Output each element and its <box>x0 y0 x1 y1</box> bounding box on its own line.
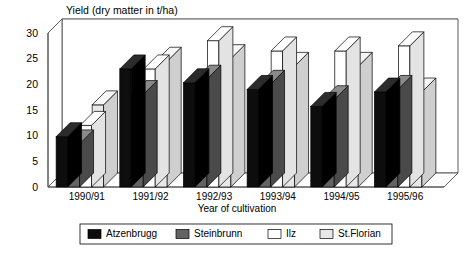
x-axis-labels: 1990/911991/921992/931993/941994/951995/… <box>69 191 424 202</box>
legend-label: Ilz <box>286 228 296 239</box>
y-axis-tick-label: 15 <box>26 104 38 116</box>
legend-swatch <box>176 230 189 239</box>
x-axis-category-label: 1992/93 <box>196 191 233 202</box>
legend-swatch <box>268 230 281 239</box>
legend-label: St.Florian <box>338 228 381 239</box>
chart-legend: AtzenbruggSteinbrunnIlzSt.Florian <box>80 224 392 244</box>
x-axis-title: Year of cultivation <box>198 203 277 214</box>
y-axis-tick-label: 5 <box>32 155 38 167</box>
chart-container: 051015202530 1990/911991/921992/931993/9… <box>0 0 475 255</box>
chart-title: Yield (dry matter in t/ha) <box>66 4 178 16</box>
y-axis-tick-label: 30 <box>26 27 38 39</box>
bar-atzenbrugg-1995-96 <box>374 78 399 187</box>
y-axis-tick-label: 20 <box>26 78 38 90</box>
y-axis-tick-label: 10 <box>26 129 38 141</box>
legend-swatch <box>320 230 333 239</box>
bar-atzenbrugg-1992-93 <box>183 69 208 187</box>
x-axis-category-label: 1994/95 <box>323 191 360 202</box>
x-axis-category-label: 1991/92 <box>132 191 169 202</box>
y-axis-tick-label: 0 <box>32 181 38 193</box>
x-axis-category-label: 1990/91 <box>69 191 106 202</box>
legend-label: Atzenbrugg <box>106 228 157 239</box>
bar-atzenbrugg-1991-92 <box>120 55 145 187</box>
legend-label: Steinbrunn <box>194 228 242 239</box>
x-axis-category-label: 1995/96 <box>387 191 424 202</box>
x-axis-category-label: 1993/94 <box>260 191 297 202</box>
yield-bar-chart: 051015202530 1990/911991/921992/931993/9… <box>0 0 475 255</box>
y-axis-tick-label: 25 <box>26 52 38 64</box>
bar-atzenbrugg-1994-95 <box>311 92 336 187</box>
bar-atzenbrugg-1993-94 <box>247 75 272 187</box>
legend-swatch <box>88 230 101 239</box>
y-axis-labels: 051015202530 <box>26 27 38 193</box>
